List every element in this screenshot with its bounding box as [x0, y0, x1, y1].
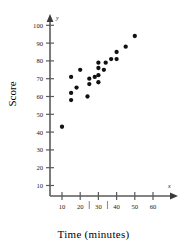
- data-point: [69, 75, 73, 79]
- data-point: [104, 61, 108, 65]
- y-tick-label: 90: [36, 40, 43, 47]
- y-tick-label: 20: [36, 164, 43, 171]
- y-tick-label: 30: [36, 146, 43, 153]
- data-point: [85, 94, 89, 98]
- data-point: [114, 50, 118, 54]
- y-tick-label: 100: [33, 22, 44, 29]
- data-point: [102, 68, 106, 72]
- data-point: [109, 57, 113, 61]
- y-tick-label: 80: [36, 57, 43, 64]
- y-axis-group: 102030405060708090100: [33, 14, 54, 196]
- y-axis-arrow-icon: [47, 14, 54, 22]
- data-point: [74, 85, 78, 89]
- data-point: [96, 80, 100, 84]
- data-point: [60, 125, 64, 129]
- x-axis-group: 102030405060: [50, 192, 178, 210]
- x-tick-label: 10: [59, 203, 66, 210]
- data-point: [96, 73, 100, 77]
- y-axis-title: Score: [6, 66, 18, 122]
- data-point: [124, 45, 128, 49]
- x-tick-label: 30: [95, 203, 102, 210]
- data-point: [78, 68, 82, 72]
- data-point: [69, 98, 73, 102]
- data-point: [87, 77, 91, 81]
- data-point: [93, 75, 97, 79]
- x-axis-title: Time (minutes): [0, 228, 187, 240]
- data-point: [114, 57, 118, 61]
- x-tick-label: 60: [150, 203, 157, 210]
- y-axis-tick-labels: 102030405060708090100: [33, 22, 44, 189]
- x-variable-label: x: [167, 183, 171, 189]
- data-points-group: [60, 34, 137, 129]
- y-variable-label: y: [55, 15, 59, 21]
- y-tick-label: 60: [36, 93, 43, 100]
- x-tick-label: 50: [132, 203, 139, 210]
- data-point: [133, 34, 137, 38]
- scatter-plot-figure: 102030405060708090100 102030405060 y x S…: [0, 0, 187, 250]
- data-point: [96, 66, 100, 70]
- plot-canvas: 102030405060708090100 102030405060 y x: [0, 0, 187, 250]
- y-tick-label: 40: [36, 129, 43, 136]
- data-point: [96, 61, 100, 65]
- data-point: [69, 91, 73, 95]
- y-tick-label: 10: [36, 182, 43, 189]
- y-tick-label: 70: [36, 75, 43, 82]
- data-point: [87, 82, 91, 86]
- x-tick-label: 20: [77, 203, 84, 210]
- y-tick-label: 50: [36, 111, 43, 118]
- x-tick-label: 40: [113, 203, 120, 210]
- x-axis-arrow-icon: [170, 193, 178, 200]
